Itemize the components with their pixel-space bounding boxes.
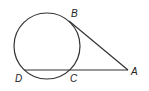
label-d: D <box>15 73 22 84</box>
label-b: B <box>71 8 78 19</box>
circle <box>14 13 80 79</box>
tangent-segment-ab <box>69 21 128 70</box>
geometry-diagram: B A D C <box>0 0 149 91</box>
label-c: C <box>70 73 78 84</box>
label-a: A <box>130 66 138 77</box>
